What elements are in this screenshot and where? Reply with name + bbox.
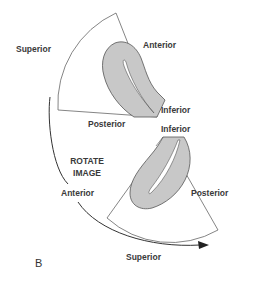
top-ultrasound-sector bbox=[58, 13, 165, 117]
top-label-anterior: Anterior bbox=[143, 41, 176, 50]
bottom-label-posterior: Posterior bbox=[191, 189, 228, 198]
top-label-inferior: Inferior bbox=[161, 106, 190, 115]
top-label-posterior: Posterior bbox=[88, 120, 125, 129]
top-label-superior: Superior bbox=[16, 45, 51, 54]
bottom-label-inferior: Inferior bbox=[161, 125, 190, 134]
rotate-image-caption: ROTATE IMAGE bbox=[64, 157, 110, 177]
panel-label: B bbox=[35, 258, 42, 269]
arrowhead-icon bbox=[198, 241, 209, 249]
echo-rotation-diagram: Superior Anterior Inferior Posterior Inf… bbox=[0, 0, 255, 282]
rotate-caption-line2: IMAGE bbox=[64, 169, 110, 178]
bottom-label-superior: Superior bbox=[126, 253, 161, 262]
bottom-label-anterior: Anterior bbox=[61, 189, 94, 198]
rotate-caption-line1: ROTATE bbox=[64, 157, 110, 166]
